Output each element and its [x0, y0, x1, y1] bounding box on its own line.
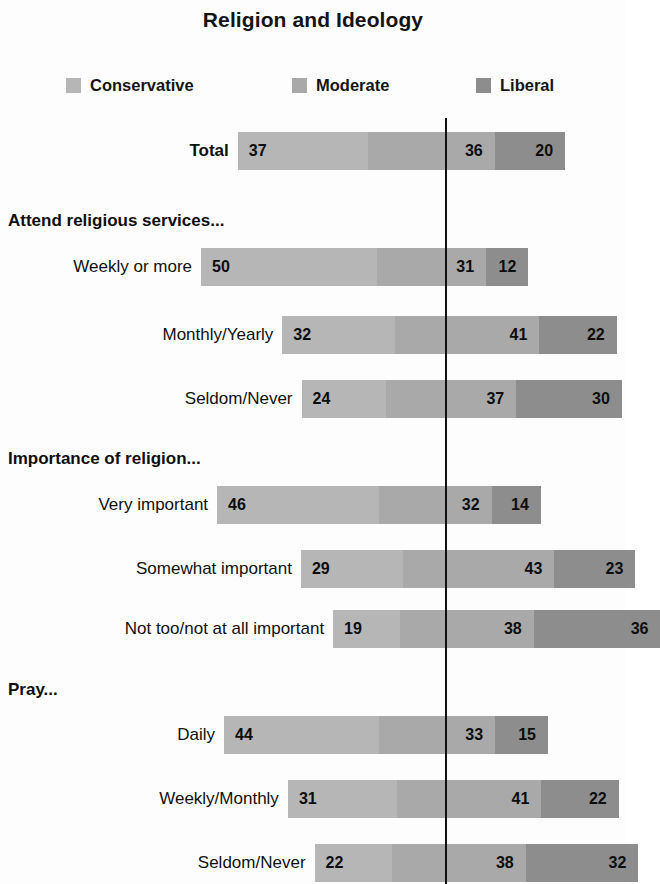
section-heading: Attend religious services... [8, 211, 224, 231]
legend-swatch-moderate [292, 78, 307, 93]
stacked-bar: 503112 [201, 248, 528, 286]
bar-value-label: 36 [465, 142, 483, 160]
stacked-bar: 223832 [315, 844, 639, 882]
bar-segment-conservative: 46 [217, 486, 379, 524]
bar-segment-moderate: 37 [386, 380, 516, 418]
bar-value-label: 23 [606, 560, 624, 578]
chart-title: Religion and Ideology [0, 8, 626, 32]
bar-segment-moderate: 43 [403, 550, 554, 588]
bar-value-label: 24 [313, 390, 331, 408]
bar-value-label: 44 [235, 726, 253, 744]
row-label: Not too/not at all important [0, 610, 333, 648]
bar-value-label: 50 [212, 258, 230, 276]
legend-item-liberal: Liberal [476, 76, 554, 95]
row-label: Somewhat important [0, 550, 301, 588]
row-label: Very important [0, 486, 217, 524]
bar-segment-conservative: 37 [238, 132, 368, 170]
bar-row: Seldom/Never243730 [0, 380, 626, 418]
bar-value-label: 37 [249, 142, 267, 160]
bar-value-label: 36 [631, 620, 649, 638]
chart-legend: Conservative Moderate Liberal [0, 76, 626, 100]
bar-segment-liberal: 15 [495, 716, 548, 754]
bar-value-label: 46 [228, 496, 246, 514]
bar-value-label: 20 [535, 142, 553, 160]
bar-value-label: 43 [525, 560, 543, 578]
plot-area: Total373620Weekly or more503112Monthly/Y… [0, 118, 626, 884]
bar-segment-conservative: 31 [288, 780, 397, 818]
bar-segment-liberal: 22 [541, 780, 618, 818]
bar-row: Monthly/Yearly324122 [0, 316, 626, 354]
stacked-bar: 243730 [302, 380, 622, 418]
bar-value-label: 30 [592, 390, 610, 408]
bar-segment-liberal: 22 [539, 316, 616, 354]
stacked-bar: 373620 [238, 132, 565, 170]
section-heading: Importance of religion... [8, 449, 201, 469]
bar-value-label: 37 [486, 390, 504, 408]
row-label: Weekly/Monthly [0, 780, 288, 818]
row-label: Total [0, 132, 238, 170]
bar-segment-moderate: 31 [377, 248, 486, 286]
stacked-bar: 324122 [282, 316, 616, 354]
legend-swatch-liberal [476, 78, 491, 93]
stacked-bar: 443315 [224, 716, 548, 754]
stacked-bar: 463214 [217, 486, 541, 524]
row-label: Weekly or more [0, 248, 201, 286]
bar-segment-conservative: 29 [301, 550, 403, 588]
bar-segment-moderate: 32 [379, 486, 492, 524]
bar-value-label: 22 [587, 326, 605, 344]
bar-value-label: 12 [499, 258, 517, 276]
bar-value-label: 38 [504, 620, 522, 638]
section-heading: Pray... [8, 680, 58, 700]
bar-row: Total373620 [0, 132, 626, 170]
bar-segment-liberal: 20 [495, 132, 565, 170]
bar-value-label: 22 [326, 854, 344, 872]
legend-swatch-conservative [66, 78, 81, 93]
bar-value-label: 33 [465, 726, 483, 744]
bar-value-label: 14 [511, 496, 529, 514]
stacked-bar: 294323 [301, 550, 635, 588]
bar-segment-moderate: 38 [400, 610, 534, 648]
bar-row: Somewhat important294323 [0, 550, 626, 588]
legend-label-conservative: Conservative [90, 76, 194, 95]
legend-item-moderate: Moderate [292, 76, 389, 95]
bar-row: Daily443315 [0, 716, 626, 754]
stacked-bar: 314122 [288, 780, 619, 818]
bar-row: Seldom/Never223832 [0, 844, 626, 882]
bar-segment-moderate: 33 [379, 716, 495, 754]
bar-row: Weekly or more503112 [0, 248, 626, 286]
bar-value-label: 41 [510, 326, 528, 344]
row-label: Seldom/Never [0, 380, 302, 418]
row-label: Seldom/Never [0, 844, 315, 882]
bar-segment-conservative: 19 [333, 610, 400, 648]
bar-segment-moderate: 38 [392, 844, 526, 882]
center-reference-line [445, 118, 447, 884]
bar-value-label: 38 [496, 854, 514, 872]
bar-value-label: 19 [344, 620, 362, 638]
bar-segment-liberal: 32 [526, 844, 639, 882]
bar-segment-liberal: 12 [486, 248, 528, 286]
bar-segment-moderate: 41 [397, 780, 541, 818]
bar-segment-conservative: 22 [315, 844, 392, 882]
stacked-bar: 193836 [333, 610, 660, 648]
legend-label-moderate: Moderate [316, 76, 389, 95]
bar-value-label: 31 [456, 258, 474, 276]
bar-segment-conservative: 50 [201, 248, 377, 286]
row-label: Monthly/Yearly [0, 316, 282, 354]
bar-segment-liberal: 36 [534, 610, 660, 648]
bar-segment-moderate: 41 [395, 316, 539, 354]
bar-row: Not too/not at all important193836 [0, 610, 626, 648]
legend-label-liberal: Liberal [500, 76, 554, 95]
bar-value-label: 32 [462, 496, 480, 514]
bar-segment-liberal: 30 [516, 380, 622, 418]
legend-item-conservative: Conservative [66, 76, 194, 95]
bar-value-label: 32 [293, 326, 311, 344]
bar-segment-liberal: 14 [492, 486, 541, 524]
bar-segment-conservative: 24 [302, 380, 386, 418]
bar-value-label: 32 [609, 854, 627, 872]
bar-row: Weekly/Monthly314122 [0, 780, 626, 818]
bar-segment-liberal: 23 [554, 550, 635, 588]
bar-value-label: 15 [518, 726, 536, 744]
bar-value-label: 29 [312, 560, 330, 578]
bar-segment-conservative: 32 [282, 316, 395, 354]
